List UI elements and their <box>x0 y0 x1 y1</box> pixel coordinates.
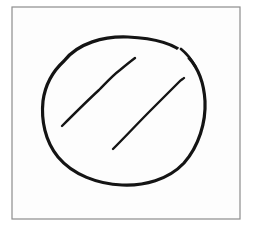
sketch-svg <box>0 0 254 230</box>
drawing-canvas: A roughly drawn circle containing two pa… <box>0 0 254 230</box>
